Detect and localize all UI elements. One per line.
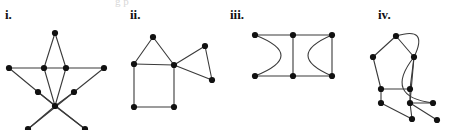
graph-edge xyxy=(134,64,174,65)
graph-vertex xyxy=(407,100,413,106)
graph-edge xyxy=(373,57,381,89)
graph-edge xyxy=(381,103,412,119)
graph-vertex xyxy=(329,32,335,38)
graph-vertex xyxy=(41,65,47,71)
graph-vertex xyxy=(71,89,77,95)
vertex-layer xyxy=(6,30,440,130)
graph-vertex xyxy=(252,73,258,79)
graph-vertex xyxy=(6,65,12,71)
panel-label-ii: ii. xyxy=(130,8,140,21)
panel-label-iv: iv. xyxy=(378,8,391,21)
graph-vertex xyxy=(52,103,58,109)
graph-edge xyxy=(55,33,66,68)
graph-vertex xyxy=(290,32,296,38)
graph-edge xyxy=(174,46,205,65)
graph-edge xyxy=(28,106,55,129)
graph-edge xyxy=(9,68,38,92)
graph-edge xyxy=(205,46,212,80)
panel-label-i: i. xyxy=(5,8,12,21)
graph-edge xyxy=(153,37,174,65)
graph-edge xyxy=(174,65,212,80)
figure-container: g p i. ii. iii. iv. xyxy=(0,0,449,130)
graph-edge xyxy=(44,68,55,106)
edge-layer xyxy=(9,33,437,129)
graph-edge xyxy=(396,33,419,57)
graph-vertex xyxy=(35,89,41,95)
graph-edge xyxy=(396,36,414,57)
graph-vertex xyxy=(52,30,58,36)
graph-vertex xyxy=(407,86,413,92)
graph-vertex xyxy=(202,43,208,49)
graph-edge xyxy=(402,57,433,103)
graph-vertex xyxy=(329,73,335,79)
graph-edge xyxy=(255,35,281,76)
graph-vertex xyxy=(171,104,177,110)
graph-vertex xyxy=(63,65,69,71)
graph-vertex xyxy=(290,73,296,79)
graph-vertex xyxy=(393,33,399,39)
graph-vertex xyxy=(101,65,107,71)
graph-vertex xyxy=(150,34,156,40)
graph-edge xyxy=(44,33,55,68)
panel-label-iii: iii. xyxy=(230,8,244,21)
graph-edge xyxy=(55,106,85,129)
graph-vertex xyxy=(411,54,417,60)
graph-vertex xyxy=(434,117,440,123)
graph-edge xyxy=(373,36,396,57)
graph-vertex xyxy=(409,116,415,122)
graph-vertex xyxy=(82,126,88,130)
graph-edge xyxy=(74,68,104,92)
graph-vertex xyxy=(252,32,258,38)
graph-vertex xyxy=(430,100,436,106)
graph-vertex xyxy=(378,100,384,106)
graph-vertex xyxy=(131,104,137,110)
graph-vertex xyxy=(209,77,215,83)
graph-vertex xyxy=(171,62,177,68)
graph-edge xyxy=(308,35,332,76)
graph-vertex xyxy=(370,54,376,60)
graph-vertex xyxy=(378,86,384,92)
graph-edge xyxy=(134,37,153,64)
graph-vertex xyxy=(131,61,137,67)
